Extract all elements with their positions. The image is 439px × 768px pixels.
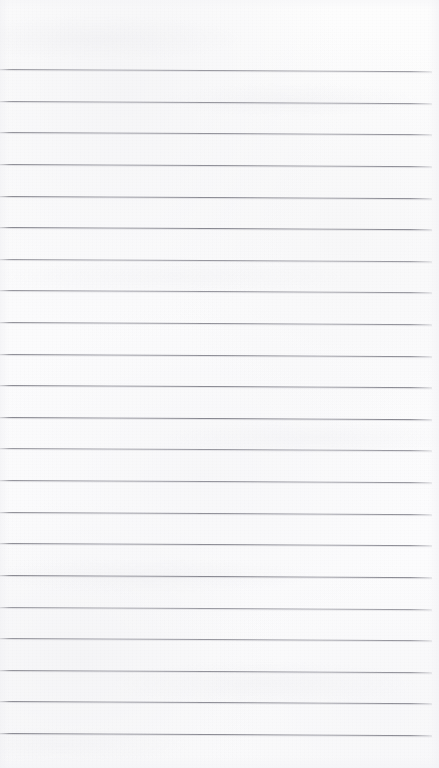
writing-row (0, 198, 439, 228)
writing-row (0, 545, 439, 575)
writing-row (0, 356, 439, 386)
writing-row (0, 39, 439, 69)
footer-margin-zone (0, 733, 439, 768)
writing-row (0, 71, 439, 101)
writing-row (0, 229, 439, 259)
writing-row (0, 387, 439, 417)
writing-row (0, 703, 439, 733)
writing-row (0, 450, 439, 480)
writing-row (0, 292, 439, 322)
writing-row (0, 134, 439, 164)
writing-row (0, 609, 439, 639)
writing-row (0, 419, 439, 449)
writing-row (0, 514, 439, 544)
writing-row (0, 640, 439, 670)
writing-row (0, 261, 439, 291)
writing-row (0, 166, 439, 196)
writing-row (0, 103, 439, 133)
writing-row (0, 482, 439, 512)
writing-row (0, 577, 439, 607)
writing-row (0, 672, 439, 702)
scanned-page (0, 0, 439, 768)
writing-row (0, 324, 439, 354)
